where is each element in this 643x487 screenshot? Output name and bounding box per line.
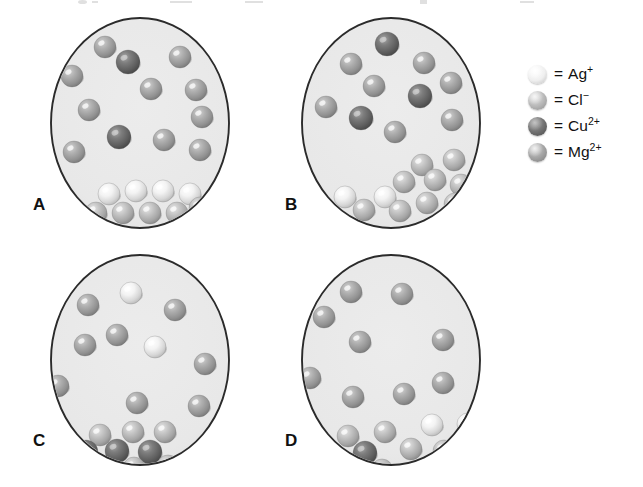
legend-symbol: Cu xyxy=(568,117,588,134)
beaker-panel-d xyxy=(299,255,484,482)
legend-swatch-cu-icon xyxy=(528,117,547,136)
legend-swatch-ag-icon xyxy=(528,65,547,84)
legend-charge: 2+ xyxy=(590,141,602,153)
legend-swatch-mg-icon xyxy=(528,143,547,162)
legend-charge: − xyxy=(583,89,589,101)
ion-sphere-cl xyxy=(461,437,484,459)
legend-symbol: Mg xyxy=(568,143,590,160)
legend-label-ag: Ag+ xyxy=(568,66,593,82)
legend-item-cu: =Cu2+ xyxy=(528,114,600,138)
legend-label-cl: Cl− xyxy=(568,92,589,108)
legend-symbol: Ag xyxy=(568,65,587,82)
legend-item-cl: =Cl− xyxy=(528,88,589,112)
legend-equals-sign: = xyxy=(554,66,563,82)
legend-item-mg: =Mg2+ xyxy=(528,140,602,164)
beaker-panel-c xyxy=(47,255,229,479)
panel-label-a: A xyxy=(33,196,45,213)
legend-item-ag: =Ag+ xyxy=(528,62,593,86)
panel-label-b: B xyxy=(285,196,297,213)
legend-equals-sign: = xyxy=(554,92,563,108)
legend-equals-sign: = xyxy=(554,144,563,160)
legend-equals-sign: = xyxy=(554,118,563,134)
beaker-panel-b xyxy=(302,18,480,228)
ion-sphere-cl xyxy=(90,457,113,479)
legend-label-mg: Mg2+ xyxy=(568,144,602,160)
panel-label-c: C xyxy=(33,432,45,449)
legend-symbol: Cl xyxy=(568,91,583,108)
legend-label-cu: Cu2+ xyxy=(568,118,600,134)
legend-swatch-cl-icon xyxy=(528,91,547,110)
legend-charge: 2+ xyxy=(588,115,600,127)
panel-label-d: D xyxy=(285,432,297,449)
ion-sphere-cl xyxy=(337,460,360,482)
legend-charge: + xyxy=(587,63,593,75)
beaker-panel-a xyxy=(51,18,229,228)
